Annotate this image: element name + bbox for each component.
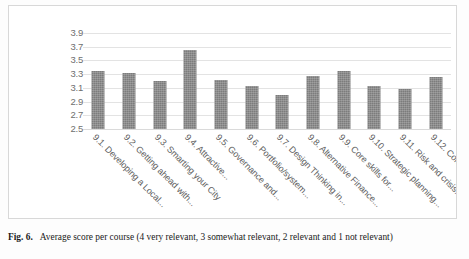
bar-slot [206,33,237,129]
bar [214,80,227,129]
bar [368,86,381,129]
plot-area [83,33,451,129]
bar [245,86,258,129]
figure-caption-text: Average score per course (4 very relevan… [40,232,393,242]
bar-slot [175,33,206,129]
bar-series [83,33,451,129]
bar [153,81,166,129]
bar-slot [267,33,298,129]
figure-caption-label: Fig. 6. [8,232,33,242]
bar [306,76,319,129]
x-axis-label-slot: 9.3. Smarting your City [144,130,175,218]
bar [337,71,350,129]
y-axis-tick-label: 3.3 [61,69,83,79]
bar-slot [83,33,114,129]
bar-slot [144,33,175,129]
y-axis-tick-label: 3.7 [61,42,83,52]
x-axis-label-slot: 9.2. Getting ahead with... [114,130,145,218]
x-axis-label-slot: 9.9. Core skills for... [328,130,359,218]
bar-slot [420,33,451,129]
bar [122,73,135,129]
bar [92,71,105,129]
bar-slot [390,33,421,129]
y-axis-tick-label: 3.9 [61,28,83,38]
y-axis-tick-label: 3.5 [61,56,83,66]
x-axis-label-slot: 9.11. Risk and crisis... [390,130,421,218]
bar-slot [298,33,329,129]
x-axis-label-slot: 9.7. Design Thinking in... [267,130,298,218]
bar [429,77,442,129]
scanned-page: 3.93.73.53.33.12.92.72.5 9.1. Developing… [0,0,469,259]
x-axis-label-slot: 9.5. Governance and... [206,130,237,218]
bar-slot [236,33,267,129]
x-axis-label-slot: 9.10. Strategic planning... [359,130,390,218]
bar-slot [328,33,359,129]
bar-slot [114,33,145,129]
x-axis-label-slot: 9.4. Attractive... [175,130,206,218]
y-axis-tick-label: 3.1 [61,83,83,93]
x-axis-label-slot: 9.6. Portfolio/system... [236,130,267,218]
x-axis: 9.1. Developing a Local...9.2. Getting a… [83,130,451,218]
chart-frame: 3.93.73.53.33.12.92.72.5 9.1. Developing… [8,5,457,219]
y-axis-tick-label: 2.9 [61,97,83,107]
y-axis-tick-label: 2.7 [61,111,83,121]
x-axis-label-slot: 9.8. Alternative Finance... [298,130,329,218]
bar [184,50,197,129]
x-axis-label-slot: 9.12. Community... [420,130,451,218]
bar [276,95,289,129]
figure-caption: Fig. 6. Average score per course (4 very… [8,232,460,244]
bar-slot [359,33,390,129]
bar [398,89,411,129]
x-axis-label-slot: 9.1. Developing a Local... [83,130,114,218]
y-axis: 3.93.73.53.33.12.92.72.5 [61,31,83,131]
y-axis-tick-label: 2.5 [61,124,83,134]
